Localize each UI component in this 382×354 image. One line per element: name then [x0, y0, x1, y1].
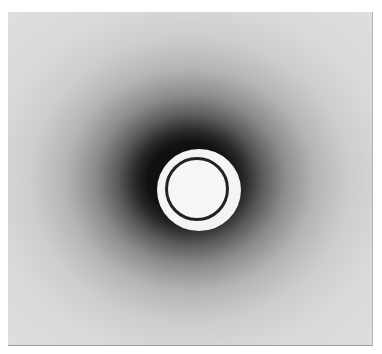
photograph [8, 12, 373, 346]
inner-dark-ring [165, 157, 229, 221]
